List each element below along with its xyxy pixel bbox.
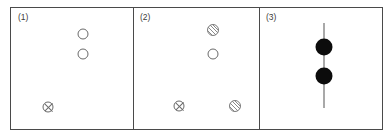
- panel-3-label: (3): [266, 12, 276, 23]
- hatched-circle-top-icon: [207, 24, 219, 36]
- filled-circle-upper-icon: [316, 39, 333, 56]
- figure-root: (1) (2) (3): [0, 0, 392, 139]
- open-circle-middle-icon: [208, 49, 219, 60]
- panel-frame: (1) (2) (3): [10, 7, 383, 130]
- panel-1-label: (1): [18, 12, 28, 23]
- filled-circle-lower-icon: [316, 68, 333, 85]
- panel-1: (1): [11, 8, 133, 129]
- panel-2-label: (2): [140, 12, 150, 23]
- open-circle-lower-icon: [78, 49, 89, 60]
- vertical-line-icon: [324, 23, 325, 108]
- panel-2: (2): [133, 8, 259, 129]
- panel-3: (3): [259, 8, 384, 129]
- hatched-circle-bottom-right-icon: [229, 100, 241, 112]
- crossed-circle-icon: [43, 102, 54, 113]
- open-circle-upper-icon: [78, 29, 89, 40]
- crossed-circle-bottom-left-icon: [174, 101, 185, 112]
